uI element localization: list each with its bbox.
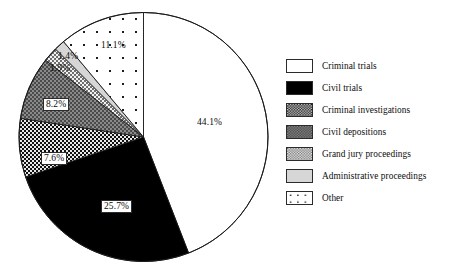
legend-swatch-civil-depositions <box>286 125 313 139</box>
legend-swatch-other <box>286 191 313 205</box>
legend-item-administrative-proceedings[interactable]: Administrative proceedings <box>286 168 449 184</box>
legend-item-criminal-trials[interactable]: Criminal trials <box>286 58 449 74</box>
slice-label-grand-jury-proceedings: 1.9% <box>50 63 70 74</box>
chart-legend: Criminal trials Civil trials Criminal in… <box>286 58 449 212</box>
legend-item-civil-depositions[interactable]: Civil depositions <box>286 124 449 140</box>
slice-label-civil-depositions: 8.2% <box>43 98 69 111</box>
legend-label-administrative-proceedings: Administrative proceedings <box>322 171 426 182</box>
legend-item-grand-jury-proceedings[interactable]: Grand jury proceedings <box>286 146 449 162</box>
pie-slices-group <box>19 13 268 262</box>
legend-item-other[interactable]: Other <box>286 190 449 206</box>
legend-item-civil-trials[interactable]: Civil trials <box>286 80 449 96</box>
legend-swatch-grand-jury-proceedings <box>286 147 313 161</box>
slice-label-civil-trials: 25.7% <box>101 200 132 213</box>
legend-label-other: Other <box>322 193 343 204</box>
pie-chart-figure: 44.1% 25.7% 7.6% 8.2% 1.9% 1.4% 11.1% Cr… <box>0 0 451 278</box>
slice-label-other: 11.1% <box>101 40 126 51</box>
legend-swatch-administrative-proceedings <box>286 169 313 183</box>
slice-label-criminal-trials: 44.1% <box>197 117 222 128</box>
legend-label-criminal-investigations: Criminal investigations <box>322 105 410 116</box>
legend-label-grand-jury-proceedings: Grand jury proceedings <box>322 149 411 160</box>
slice-label-criminal-investigations: 7.6% <box>41 152 67 165</box>
legend-item-criminal-investigations[interactable]: Criminal investigations <box>286 102 449 118</box>
legend-swatch-civil-trials <box>286 81 313 95</box>
legend-swatch-criminal-investigations <box>286 103 313 117</box>
slice-label-administrative-proceedings: 1.4% <box>58 51 78 62</box>
legend-label-civil-trials: Civil trials <box>322 83 362 94</box>
legend-swatch-criminal-trials <box>286 59 313 73</box>
legend-label-criminal-trials: Criminal trials <box>322 61 377 72</box>
legend-label-civil-depositions: Civil depositions <box>322 127 386 138</box>
